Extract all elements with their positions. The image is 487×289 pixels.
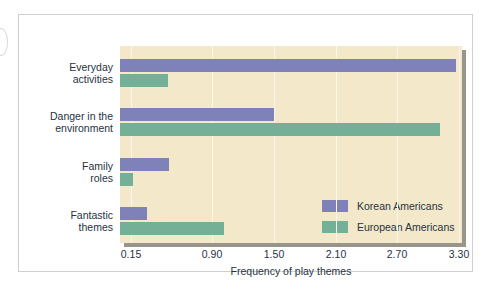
gridline-2.70 [397,46,398,243]
category-label-line: Danger in the [37,110,113,123]
x-tick-label: 2.10 [326,248,346,260]
bar [120,158,169,171]
page-edge-arc-decoration [0,28,8,56]
x-axis-tick-labels: 0.150.901.502.102.703.30 [120,248,462,262]
x-tick-label: 0.90 [202,248,222,260]
x-tick-label: 1.50 [264,248,284,260]
bar [120,123,440,136]
legend-label-korean-americans: Korean Americans [357,200,443,212]
gridline-2.10 [336,46,337,243]
gridline-3.30 [459,46,460,243]
plot-area: Korean Americans European Americans [120,46,462,243]
category-label: Everydayactivities [37,61,113,86]
legend-item-korean-americans: Korean Americans [322,197,460,214]
category-label-line: themes [37,221,113,234]
bar [120,108,274,121]
bar [120,222,224,235]
bar [120,74,168,87]
category-label: Familyroles [37,160,113,185]
gridline-1.50 [274,46,275,243]
bar [120,59,456,72]
category-label-line: environment [37,122,113,135]
category-label-line: Fantastic [37,209,113,222]
x-tick-label: 0.15 [121,248,141,260]
plot-wrapper: Korean Americans European Americans [120,46,462,243]
category-label: Fantasticthemes [37,209,113,234]
category-axis-labels: EverydayactivitiesDanger in theenvironme… [37,46,113,243]
chart-figure: Korean Americans European Americans Ever… [0,0,487,289]
x-tick-label: 2.70 [387,248,407,260]
category-label: Danger in theenvironment [37,110,113,135]
legend-item-european-americans: European Americans [322,218,460,235]
bar [120,207,147,220]
legend-swatch-european-americans [322,221,348,233]
category-label-line: activities [37,73,113,86]
gridline-0.90 [212,46,213,243]
category-label-line: Family [37,160,113,173]
bar [120,173,133,186]
legend-swatch-korean-americans [322,200,348,212]
legend-label-european-americans: European Americans [357,221,454,233]
chart-legend: Korean Americans European Americans [322,197,460,239]
chart-card: Korean Americans European Americans Ever… [18,14,473,272]
category-label-line: roles [37,172,113,185]
x-tick-label: 3.30 [449,248,469,260]
x-axis-title: Frequency of play themes [120,265,462,277]
category-label-line: Everyday [37,61,113,74]
